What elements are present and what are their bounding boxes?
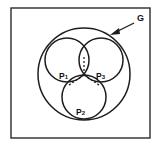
label-g: G — [137, 13, 144, 23]
figure-diagram: G P1 P2 P3 — [0, 0, 168, 146]
figure-container: G P1 P2 P3 — [0, 0, 168, 146]
